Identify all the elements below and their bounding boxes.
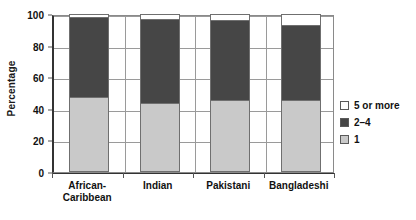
y-axis-tick-label: 20: [33, 136, 44, 147]
stacked-bar[interactable]: [69, 14, 109, 172]
legend-swatch: [340, 135, 349, 144]
bar-segment[interactable]: [211, 101, 249, 171]
stacked-bar[interactable]: [140, 14, 180, 172]
legend-label: 5 or more: [354, 100, 400, 111]
x-axis-category-label: Indian: [123, 180, 194, 192]
y-axis-title: Percentage: [2, 0, 22, 176]
stacked-bar[interactable]: [281, 14, 321, 172]
y-axis-tick-label: 40: [33, 104, 44, 115]
bar-segment[interactable]: [282, 15, 320, 26]
bar-group: [195, 16, 266, 172]
x-axis-category-label: Bangladeshi: [264, 180, 335, 192]
legend-item[interactable]: 5 or more: [340, 98, 414, 113]
bar-segment[interactable]: [141, 20, 179, 104]
chart-legend: 5 or more2–41: [340, 98, 414, 149]
bar-group: [266, 16, 337, 172]
y-axis-ticks: 100806040200: [20, 8, 48, 174]
y-axis-tick-label: 0: [38, 168, 44, 179]
legend-label: 1: [354, 134, 360, 145]
legend-label: 2–4: [354, 117, 371, 128]
bar-segment[interactable]: [70, 98, 108, 171]
bar-group: [54, 16, 125, 172]
x-axis-tick-mark: [123, 173, 124, 178]
x-axis-tick-mark: [193, 173, 194, 178]
x-axis-category-label: Pakistani: [193, 180, 264, 192]
x-axis-tick-mark: [264, 173, 265, 178]
x-axis-tick-mark: [52, 173, 53, 178]
bar-segment[interactable]: [70, 18, 108, 98]
bar-segment[interactable]: [282, 101, 320, 171]
legend-swatch: [340, 118, 349, 127]
chart-figure: Percentage 100806040200 5 or more2–41 Af…: [0, 0, 416, 220]
y-axis-tick-label: 60: [33, 73, 44, 84]
x-axis-category-label: African- Caribbean: [52, 180, 123, 204]
legend-swatch: [340, 101, 349, 110]
bar-segment[interactable]: [211, 21, 249, 101]
legend-item[interactable]: 1: [340, 132, 414, 147]
y-axis-tick-label: 80: [33, 41, 44, 52]
x-axis-tick-mark: [334, 173, 335, 178]
plot-area: [52, 15, 334, 173]
bar-segment[interactable]: [141, 104, 179, 171]
bar-group: [125, 16, 196, 172]
stacked-bar[interactable]: [210, 14, 250, 172]
y-axis-tick-label: 100: [27, 10, 44, 21]
bar-segment[interactable]: [282, 26, 320, 101]
y-axis-title-text: Percentage: [7, 60, 18, 116]
legend-item[interactable]: 2–4: [340, 115, 414, 130]
